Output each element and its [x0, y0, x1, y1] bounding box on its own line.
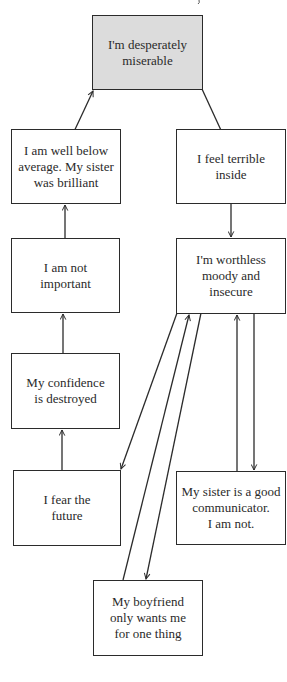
node-confidence-destroyed: My confidence is destroyed [11, 353, 120, 429]
node-feel-terrible: I feel terrible inside [176, 129, 286, 204]
node-sister-communicator: My sister is a good communicator. I am n… [176, 471, 286, 545]
node-text-line: average. My sister [18, 159, 114, 175]
edge-worthless-to-fear-future [121, 313, 177, 469]
node-text-line: I'm desperately [108, 37, 187, 53]
node-text-line: I am not. [182, 516, 281, 532]
node-text-line: I feel terrible [197, 151, 265, 167]
cut-off-title-glyph [198, 0, 199, 4]
node-boyfriend: My boyfriend only wants me for one thing [93, 580, 203, 656]
node-text-line: inside [197, 167, 265, 183]
node-text-line: I am well below [18, 143, 114, 159]
node-text-line: insecure [196, 284, 266, 300]
node-text-line: future [44, 508, 91, 524]
node-text-line: My boyfriend [110, 594, 186, 610]
node-text-line: I fear the [44, 492, 91, 508]
node-text-line: communicator. [182, 500, 281, 516]
node-text-line: only wants me [110, 610, 186, 626]
node-desperately-miserable: I'm desperately miserable [92, 15, 203, 90]
node-text-line: is destroyed [26, 391, 104, 407]
node-text-line: My sister is a good [182, 484, 281, 500]
node-text-line: miserable [108, 53, 187, 69]
node-not-important: I am not important [11, 238, 120, 313]
node-text-line: was brilliant [18, 175, 114, 191]
node-text-line: important [40, 276, 91, 292]
node-text-line: I'm worthless [196, 252, 266, 268]
node-text-line: moody and [196, 268, 266, 284]
node-text-line: for one thing [110, 626, 186, 642]
node-below-average: I am well below average. My sister was b… [11, 129, 121, 204]
node-text-line: I am not [40, 260, 91, 276]
node-fear-future: I fear the future [13, 470, 121, 546]
node-worthless: I'm worthless moody and insecure [176, 238, 286, 314]
node-text-line: My confidence [26, 375, 104, 391]
